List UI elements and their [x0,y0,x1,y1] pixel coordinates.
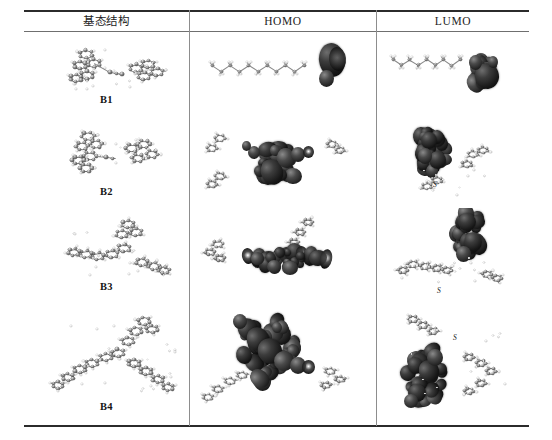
orbital-render-lumo-b2 [377,118,529,208]
row-label-b1: B1 [24,94,189,105]
cell-structure-b1: B1 [24,32,189,118]
molecule-render-b1 [24,32,189,118]
column-header-lumo: LUMO [377,13,529,30]
cell-homo-b3 [190,208,376,305]
cell-lumo-b2: S [377,118,529,208]
orbital-render-homo-b1 [190,32,376,118]
orbital-render-homo-b2 [190,118,376,208]
cell-lumo-b1 [377,32,529,118]
column-header-homo: HOMO [190,13,376,30]
orbital-render-homo-b4 [190,305,376,425]
row-label-b3: B3 [24,281,189,292]
orbital-render-lumo-b1 [377,32,529,118]
cell-lumo-b3: S [377,208,529,305]
atom-label-sulfur: S [453,333,457,342]
row-label-b4: B4 [24,401,189,412]
cell-homo-b4 [190,305,376,425]
cell-homo-b2 [190,118,376,208]
cell-homo-b1 [190,32,376,118]
cell-structure-b2: B2 [24,118,189,208]
cell-lumo-b4: S [377,305,529,425]
cell-structure-b3: B3 [24,208,189,305]
figure-table: 基态结构 HOMO LUMO B1 B2 S B3 S B4 [0,0,552,440]
column-header-structure: 基态结构 [24,13,189,30]
orbital-render-homo-b3 [190,208,376,305]
cell-structure-b4: B4 [24,305,189,425]
table-top-rule [24,10,529,12]
atom-label-sulfur: S [437,286,441,295]
orbital-render-lumo-b3 [377,208,529,305]
table-bottom-rule [24,425,529,427]
orbital-render-lumo-b4 [377,305,529,425]
atom-label-sulfur: S [433,180,437,189]
row-label-b2: B2 [24,186,189,197]
